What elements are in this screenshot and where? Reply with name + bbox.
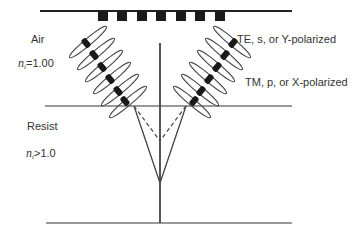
mask-blocks [98, 11, 225, 21]
medium-label-air: Air [31, 34, 44, 45]
refracted-ray-right [160, 106, 186, 183]
refracted-ray-left [134, 106, 160, 183]
index-label-air: ni=1.00 [18, 57, 54, 71]
left-dipoles [80, 37, 130, 107]
unrefracted-ray-right [160, 106, 186, 141]
medium-label-resist: Resist [27, 121, 58, 132]
tm-polarization-label: TM, p, or X-polarized [245, 77, 348, 88]
te-polarization-label: TE, s, or Y-polarized [237, 34, 336, 45]
index-label-resist: ni>1.0 [26, 147, 56, 161]
index-value: =1.00 [26, 57, 54, 69]
unrefracted-ray-left [134, 106, 160, 141]
index-value: >1.0 [34, 147, 56, 159]
